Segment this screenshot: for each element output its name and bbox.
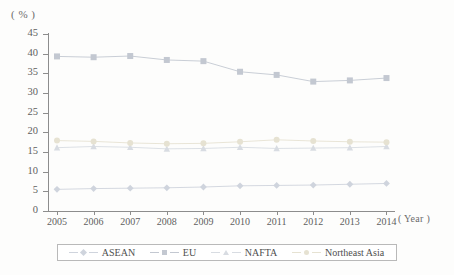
legend-label: ASEAN: [101, 247, 136, 258]
data-point-marker: [347, 139, 353, 145]
data-point-marker: [310, 182, 317, 189]
data-point-marker: [274, 72, 280, 78]
legend-item-asean[interactable]: ASEAN: [69, 247, 136, 258]
data-point-marker: [346, 181, 353, 188]
chart-figure: ( % ) ( Year ) 051015202530354045 200520…: [0, 0, 454, 275]
data-point-marker: [310, 138, 316, 144]
legend-line-icon: [69, 252, 78, 253]
series-line: [57, 183, 386, 189]
data-point-marker: [310, 79, 316, 85]
legend-marker-diamond-icon: [80, 249, 87, 256]
legend-item-nafta[interactable]: NAFTA: [211, 247, 279, 258]
series-eu: [54, 53, 389, 85]
data-point-marker: [274, 137, 280, 143]
legend-marker-square-icon: [162, 250, 167, 255]
series-asean: [54, 180, 390, 193]
legend-line-icon: [89, 252, 98, 253]
data-point-marker: [163, 184, 170, 191]
data-point-marker: [383, 75, 389, 81]
legend-item-eu[interactable]: EU: [150, 247, 197, 258]
series-line: [57, 56, 386, 82]
data-point-marker: [91, 138, 97, 144]
data-point-marker: [127, 140, 133, 146]
legend-line-icon: [150, 252, 159, 253]
data-point-marker: [90, 185, 97, 192]
legend-line-icon: [312, 252, 321, 253]
data-point-marker: [91, 54, 97, 60]
data-point-marker: [200, 140, 206, 146]
series-line: [57, 140, 386, 144]
data-point-marker: [237, 182, 244, 189]
data-point-marker: [237, 69, 243, 75]
legend-label: EU: [182, 247, 197, 258]
chart-legend: ASEANEUNAFTANortheast Asia: [57, 244, 397, 261]
legend-line-icon: [170, 252, 179, 253]
data-point-marker: [54, 138, 60, 144]
data-point-marker: [200, 58, 206, 64]
data-point-marker: [383, 180, 390, 187]
data-point-marker: [54, 186, 61, 193]
data-point-marker: [347, 77, 353, 83]
legend-item-northeast-asia[interactable]: Northeast Asia: [292, 247, 385, 258]
series-northeast-asia: [54, 137, 389, 147]
legend-line-icon: [292, 252, 301, 253]
data-point-marker: [127, 185, 134, 192]
data-point-marker: [200, 184, 207, 191]
legend-line-icon: [232, 252, 241, 253]
data-point-marker: [237, 139, 243, 145]
legend-line-icon: [211, 252, 220, 253]
data-point-marker: [383, 139, 389, 145]
series-line: [57, 146, 386, 148]
data-point-marker: [127, 53, 133, 59]
legend-marker-triangle-icon: [223, 250, 229, 255]
legend-marker-circle-icon: [304, 250, 309, 255]
data-point-marker: [273, 182, 280, 189]
legend-label: Northeast Asia: [324, 247, 385, 258]
chart-plot-area: [0, 0, 454, 275]
series-nafta: [54, 143, 390, 152]
data-point-marker: [54, 53, 60, 59]
data-point-marker: [164, 141, 170, 147]
legend-label: NAFTA: [244, 247, 279, 258]
data-point-marker: [164, 57, 170, 63]
